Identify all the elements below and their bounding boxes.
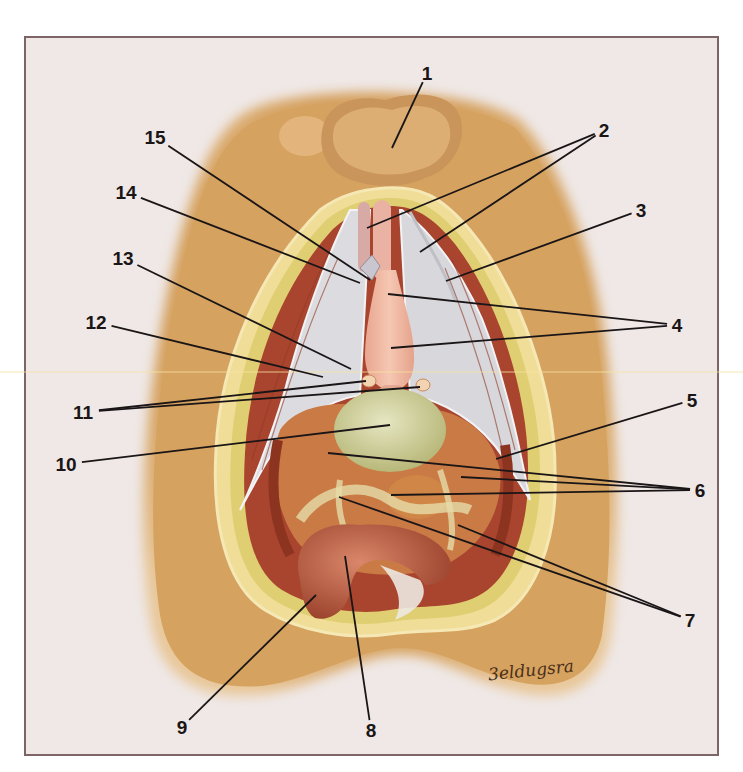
- label-14: 14: [115, 183, 136, 202]
- anatomical-illustration: [0, 0, 743, 772]
- label-11: 11: [73, 403, 93, 422]
- label-10: 10: [55, 455, 76, 474]
- label-8: 8: [366, 721, 377, 740]
- label-12: 12: [85, 313, 106, 332]
- label-1: 1: [422, 64, 433, 83]
- label-5: 5: [687, 391, 698, 410]
- label-15: 15: [144, 128, 165, 147]
- label-6: 6: [695, 481, 706, 500]
- label-4: 4: [672, 316, 683, 335]
- label-2: 2: [599, 121, 610, 140]
- label-13: 13: [112, 249, 133, 268]
- label-3: 3: [636, 201, 647, 220]
- label-9: 9: [177, 718, 188, 737]
- label-7: 7: [685, 611, 696, 630]
